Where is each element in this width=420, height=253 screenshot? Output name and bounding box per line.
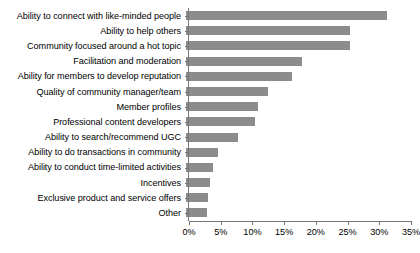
bar-track	[186, 99, 413, 114]
bar	[186, 72, 292, 81]
value-tick	[221, 221, 222, 225]
bar	[186, 41, 350, 50]
category-label: Professional content developers	[0, 117, 186, 127]
bar-track	[186, 175, 413, 190]
bar	[186, 87, 268, 96]
value-tick-label: 15%	[275, 227, 293, 238]
value-tick	[348, 221, 349, 225]
category-tick	[185, 168, 189, 169]
bar-track	[186, 84, 413, 99]
bar-track	[186, 205, 413, 220]
bar-row: Incentives	[0, 175, 413, 190]
bar-row: Ability to connect with like-minded peop…	[0, 8, 413, 23]
bar-track	[186, 23, 413, 38]
category-axis-line	[188, 8, 189, 221]
bar	[186, 148, 218, 157]
bar	[186, 117, 255, 126]
bar	[186, 163, 213, 172]
bar	[186, 57, 302, 66]
bar-track	[186, 114, 413, 129]
category-label: Ability to help others	[0, 26, 186, 36]
bar-track	[186, 190, 413, 205]
category-tick	[185, 152, 189, 153]
category-label: Ability to conduct time-limited activiti…	[0, 162, 186, 172]
bar-row: Ability to help others	[0, 23, 413, 38]
category-label: Ability to do transactions in community	[0, 147, 186, 157]
bar-row: Facilitation and moderation	[0, 54, 413, 69]
category-label: Ability to search/recommend UGC	[0, 132, 186, 142]
category-label: Facilitation and moderation	[0, 56, 186, 66]
value-tick	[252, 221, 253, 225]
value-tick-label: 30%	[370, 227, 388, 238]
value-axis-line	[189, 221, 411, 222]
bar-track	[186, 145, 413, 160]
bar-row: Community focused around a hot topic	[0, 38, 413, 53]
category-tick	[185, 61, 189, 62]
bar-row: Quality of community manager/team	[0, 84, 413, 99]
bar-track	[186, 38, 413, 53]
category-tick	[185, 76, 189, 77]
value-tick-label: 0%	[182, 227, 195, 238]
bar	[186, 178, 210, 187]
bar-row: Exclusive product and service offers	[0, 190, 413, 205]
bar	[186, 26, 350, 35]
category-label: Ability to connect with like-minded peop…	[0, 11, 186, 21]
bar-row: Ability to search/recommend UGC	[0, 130, 413, 145]
bar-track	[186, 8, 413, 23]
value-tick-label: 25%	[338, 227, 356, 238]
category-tick	[185, 198, 189, 199]
bar-row: Professional content developers	[0, 114, 413, 129]
category-tick	[185, 92, 189, 93]
category-tick	[185, 122, 189, 123]
bar	[186, 11, 387, 20]
category-label: Member profiles	[0, 102, 186, 112]
value-tick	[189, 221, 190, 225]
category-label: Other	[0, 208, 186, 218]
category-label: Quality of community manager/team	[0, 87, 186, 97]
bar-track	[186, 54, 413, 69]
bar-row: Ability for members to develop reputatio…	[0, 69, 413, 84]
category-tick	[185, 213, 189, 214]
value-tick	[411, 221, 412, 225]
value-tick	[284, 221, 285, 225]
bar-row: Other	[0, 205, 413, 220]
category-tick	[185, 183, 189, 184]
category-tick	[185, 31, 189, 32]
value-tick-label: 35%	[402, 227, 420, 238]
value-tick-label: 10%	[243, 227, 261, 238]
value-tick-label: 5%	[214, 227, 227, 238]
bar-track	[186, 160, 413, 175]
category-tick	[185, 16, 189, 17]
bar-rows: Ability to connect with like-minded peop…	[0, 8, 413, 221]
category-label: Ability for members to develop reputatio…	[0, 71, 186, 81]
category-tick	[185, 137, 189, 138]
bar-row: Member profiles	[0, 99, 413, 114]
bar-row: Ability to do transactions in community	[0, 145, 413, 160]
value-tick-label: 20%	[307, 227, 325, 238]
value-tick	[316, 221, 317, 225]
bar-track	[186, 69, 413, 84]
bar-row: Ability to conduct time-limited activiti…	[0, 160, 413, 175]
bar	[186, 208, 207, 217]
bar	[186, 133, 238, 142]
bar-track	[186, 130, 413, 145]
value-tick	[379, 221, 380, 225]
category-label: Incentives	[0, 178, 186, 188]
category-tick	[185, 107, 189, 108]
category-tick	[185, 46, 189, 47]
category-label: Community focused around a hot topic	[0, 41, 186, 51]
category-label: Exclusive product and service offers	[0, 193, 186, 203]
bar	[186, 102, 258, 111]
bar	[186, 193, 208, 202]
